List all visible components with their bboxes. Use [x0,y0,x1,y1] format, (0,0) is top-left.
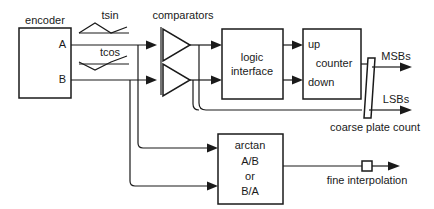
counter-label: counter [316,57,353,69]
logic-to-counter-wires [283,41,303,85]
comparator-bottom-branch-to-bus [193,80,199,110]
tcos-label: tcos [100,46,121,58]
tsin-label: tsin [101,9,118,21]
lsbs-arrowhead-icon [400,106,412,115]
comparators-label: comparators [152,9,214,21]
fine-interpolation-label: fine interpolation [327,174,408,186]
counter-port-up-label: up [308,38,320,50]
logic-interface-label-line1: logic [241,51,264,63]
comparators-block: comparators [152,9,214,96]
arctan-label-line1: arctan [235,139,266,151]
fine-interpolation-arrowhead-icon [388,162,400,171]
tcos-icon [79,56,127,70]
encoder-label: encoder [25,14,65,26]
fine-interpolation-node-icon [362,161,372,171]
tsin-waveform: tsin [79,9,129,33]
signal-a-arrowhead-icon [146,41,157,50]
encoder-port-b-label: B [59,73,66,85]
tcos-waveform: tcos [79,46,129,70]
comparator-top-icon [163,29,190,61]
encoder-block: encoder A B [19,14,71,98]
counter-port-down-label: down [308,76,334,88]
arctan-block: arctan A/B or B/A [218,134,283,204]
lsbs-label: LSBs [383,93,410,105]
logic-interface-label-line2: interface [231,65,273,77]
signal-a-branch-to-arctan [138,45,207,148]
msbs-output: MSBs [372,50,412,72]
signal-a-arctan-arrowhead-icon [207,144,218,153]
signal-b-arrowhead-icon [146,76,157,85]
fine-interpolation-output: fine interpolation [283,161,407,186]
signal-b-arctan-arrowhead-icon [207,182,218,191]
arctan-label-line3: or [245,170,255,182]
arctan-label-line4: B/A [241,185,259,197]
block-diagram: encoder A B tsin tcos [0,0,434,209]
encoder-port-a-label: A [59,38,67,50]
logic-up-arrowhead-icon [292,41,303,50]
signal-b-wire [71,76,218,191]
diagram-canvas: encoder A B tsin tcos [0,0,434,209]
signal-a-wire [71,41,218,153]
arctan-label-line2: A/B [241,155,259,167]
signal-b-branch-to-arctan [130,80,207,186]
logic-interface-block: logic interface [222,29,283,99]
comparator-top-output-arrowhead-icon [211,41,222,50]
comparator-bottom-icon [163,64,190,96]
coarse-plate-count-label: coarse plate count [330,121,420,133]
tsin-icon [79,23,127,33]
comparator-bottom-output-arrowhead-icon [211,76,222,85]
lsbs-output: LSBs [369,93,412,115]
msbs-label: MSBs [381,50,411,62]
msbs-arrowhead-icon [400,63,412,72]
logic-down-arrowhead-icon [292,76,303,85]
counter-block: up counter down [303,29,361,99]
